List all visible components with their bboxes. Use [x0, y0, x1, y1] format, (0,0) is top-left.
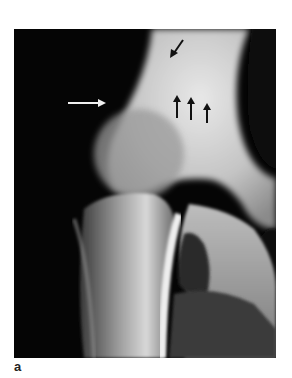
xray-illustration [14, 29, 276, 358]
radiograph-image [14, 29, 276, 358]
panel-label: a [14, 360, 21, 374]
